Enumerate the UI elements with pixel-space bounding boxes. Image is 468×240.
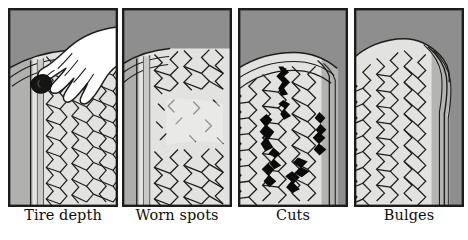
panel-frame bbox=[122, 8, 232, 207]
panel-tire-depth[interactable] bbox=[8, 8, 118, 207]
panel-bulges[interactable] bbox=[354, 8, 464, 207]
caption-bulges: Bulges bbox=[354, 207, 464, 223]
caption-cuts: Cuts bbox=[238, 207, 348, 223]
worn-tread-icon bbox=[123, 9, 231, 206]
panel-cuts[interactable] bbox=[238, 8, 348, 207]
coin-shape bbox=[31, 75, 52, 94]
sidewall-bulge-icon bbox=[355, 9, 463, 206]
panel-frame bbox=[8, 8, 118, 207]
caption-tire-depth: Tire depth bbox=[8, 207, 118, 223]
panel-worn-spots[interactable] bbox=[122, 8, 232, 207]
tire-inspection-figure: Tire depth Worn spots Cuts Bulges bbox=[0, 0, 468, 240]
hand-with-coin-in-tread-icon bbox=[9, 9, 117, 206]
tread-cuts-icon bbox=[239, 9, 347, 206]
panel-frame bbox=[238, 8, 348, 207]
caption-worn-spots: Worn spots bbox=[122, 207, 232, 223]
cropped-heading-remnant bbox=[0, 0, 468, 7]
panel-row bbox=[0, 8, 468, 208]
panel-frame bbox=[354, 8, 464, 207]
